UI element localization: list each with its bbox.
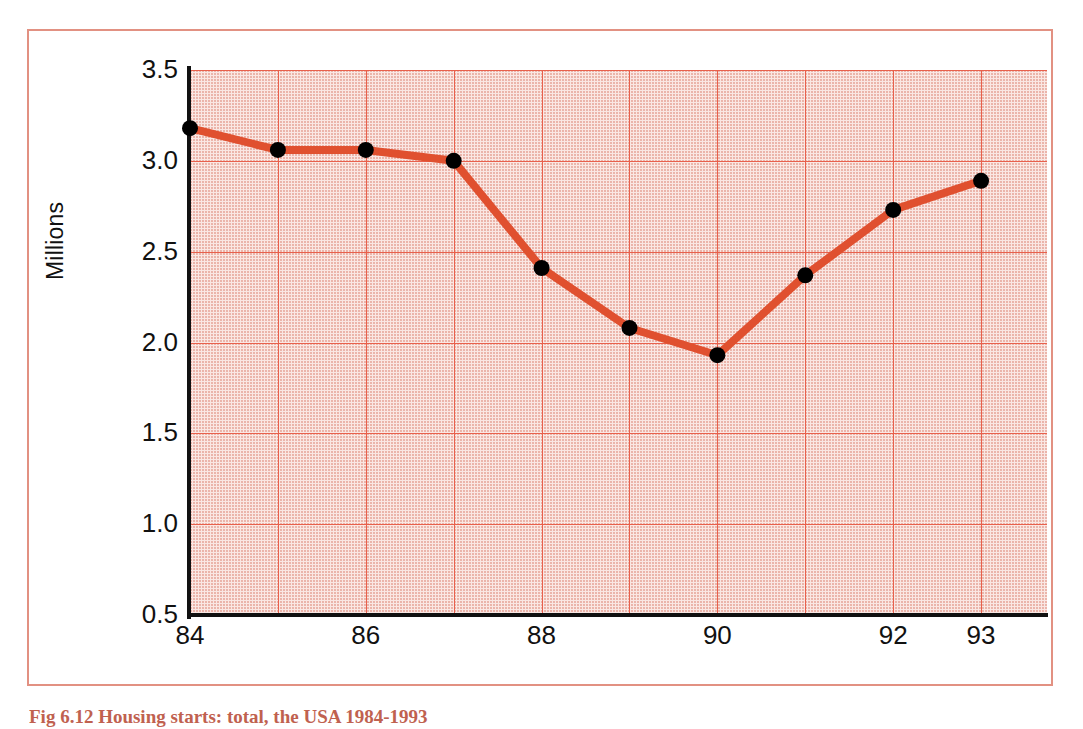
gridline-horizontal	[190, 343, 1047, 344]
gridline-vertical	[366, 70, 367, 615]
y-axis-title: Millions	[42, 202, 69, 280]
x-tick-label: 92	[879, 620, 908, 651]
x-tick-label: 88	[527, 620, 556, 651]
gridline-vertical	[454, 70, 455, 615]
x-tick-label: 84	[176, 620, 205, 651]
y-tick-label: 2.0	[108, 327, 178, 358]
x-axis-line	[187, 613, 1048, 617]
gridline-horizontal	[190, 70, 1047, 71]
figure-caption: Fig 6.12 Housing starts: total, the USA …	[29, 706, 1049, 728]
gridline-vertical	[278, 70, 279, 615]
y-tick-label: 1.5	[108, 417, 178, 448]
y-axis-tick-labels: 3.53.02.52.01.51.00.5	[100, 0, 178, 729]
x-tick-label: 90	[703, 620, 732, 651]
gridline-horizontal	[190, 161, 1047, 162]
gridline-vertical	[629, 70, 630, 615]
y-tick-label: 0.5	[108, 599, 178, 630]
plot-area	[190, 70, 1047, 615]
gridline-horizontal	[190, 252, 1047, 253]
gridline-vertical	[981, 70, 982, 615]
x-tick-label: 93	[967, 620, 996, 651]
y-axis-line	[187, 66, 191, 619]
y-tick-label: 3.0	[108, 145, 178, 176]
y-tick-label: 3.5	[108, 54, 178, 85]
line-chart: 3.53.02.52.01.51.00.5 848688909293 Milli…	[0, 0, 1083, 729]
y-tick-label: 1.0	[108, 508, 178, 539]
gridline-horizontal	[190, 524, 1047, 525]
y-tick-label: 2.5	[108, 236, 178, 267]
gridline-vertical	[893, 70, 894, 615]
gridline-vertical	[805, 70, 806, 615]
gridline-vertical	[542, 70, 543, 615]
x-tick-label: 86	[351, 620, 380, 651]
gridline-vertical	[717, 70, 718, 615]
gridline-horizontal	[190, 433, 1047, 434]
